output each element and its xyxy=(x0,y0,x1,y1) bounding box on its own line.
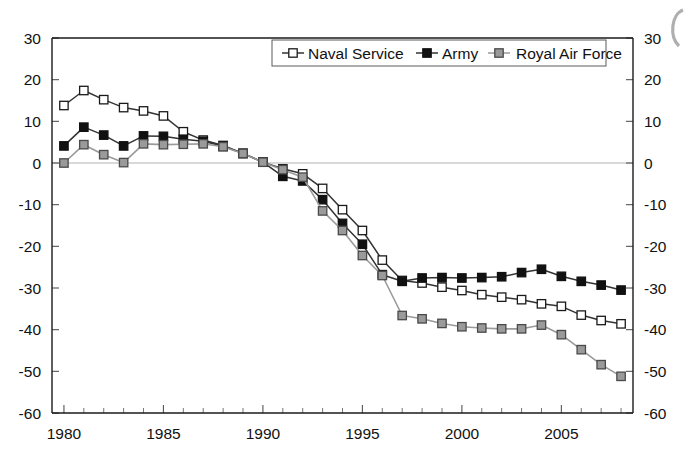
data-point-marker xyxy=(517,295,525,303)
chart-legend: Naval ServiceArmyRoyal Air Force xyxy=(272,40,622,66)
data-point-marker xyxy=(577,277,585,285)
data-point-marker xyxy=(219,143,227,151)
data-point-marker xyxy=(159,140,167,148)
data-point-marker xyxy=(418,274,426,282)
y-tick-label-right: -10 xyxy=(644,196,667,213)
data-point-marker xyxy=(80,123,88,131)
data-point-marker xyxy=(358,226,366,234)
y-tick-label-left: -30 xyxy=(19,280,42,297)
data-point-marker xyxy=(458,286,466,294)
data-point-marker xyxy=(478,324,486,332)
y-tick-label-right: -20 xyxy=(644,238,667,255)
data-point-marker xyxy=(438,273,446,281)
y-tick-label-left: -40 xyxy=(19,321,42,338)
data-point-marker xyxy=(478,290,486,298)
data-point-marker xyxy=(318,207,326,215)
data-point-marker xyxy=(537,321,545,329)
data-point-marker xyxy=(617,372,625,380)
data-point-marker xyxy=(358,251,366,259)
data-point-marker xyxy=(199,140,207,148)
data-point-marker xyxy=(338,226,346,234)
legend-marker-swatch xyxy=(495,49,503,57)
data-point-marker xyxy=(597,316,605,324)
data-point-marker xyxy=(318,184,326,192)
y-tick-label-left: -60 xyxy=(19,405,42,422)
data-point-marker xyxy=(279,165,287,173)
data-point-marker xyxy=(577,345,585,353)
chart-container: 3020100-10-20-30-40-50-60 3020100-10-20-… xyxy=(0,0,688,451)
y-tick-label-right: -30 xyxy=(644,280,667,297)
y-tick-label-right: 0 xyxy=(644,155,653,172)
data-point-marker xyxy=(139,132,147,140)
legend-label: Royal Air Force xyxy=(516,45,622,62)
data-point-marker xyxy=(378,256,386,264)
data-point-marker xyxy=(597,360,605,368)
data-point-marker xyxy=(139,140,147,148)
y-tick-label-right: 10 xyxy=(644,113,662,130)
data-point-marker xyxy=(338,205,346,213)
data-point-marker xyxy=(119,158,127,166)
data-point-marker xyxy=(597,281,605,289)
data-point-marker xyxy=(378,271,386,279)
data-point-marker xyxy=(418,315,426,323)
data-point-marker xyxy=(517,268,525,276)
data-point-marker xyxy=(119,142,127,150)
data-point-marker xyxy=(80,86,88,94)
data-point-marker xyxy=(60,142,68,150)
data-point-marker xyxy=(617,286,625,294)
legend-label: Naval Service xyxy=(308,45,404,62)
data-point-marker xyxy=(100,150,108,158)
x-tick-label: 2005 xyxy=(544,425,578,442)
data-point-marker xyxy=(119,103,127,111)
data-point-marker xyxy=(517,325,525,333)
data-point-marker xyxy=(100,131,108,139)
data-point-marker xyxy=(80,140,88,148)
data-point-marker xyxy=(100,95,108,103)
y-tick-label-left: 0 xyxy=(32,155,41,172)
data-point-marker xyxy=(159,112,167,120)
x-tick-label: 1990 xyxy=(246,425,281,442)
y-tick-label-left: 20 xyxy=(24,71,42,88)
legend-label: Army xyxy=(442,45,478,62)
data-point-marker xyxy=(259,158,267,166)
data-point-marker xyxy=(438,319,446,327)
x-tick-label: 1995 xyxy=(345,425,379,442)
data-point-marker xyxy=(398,311,406,319)
y-tick-label-right: 20 xyxy=(644,71,662,88)
data-point-marker xyxy=(537,265,545,273)
y-tick-label-left: -50 xyxy=(19,363,42,380)
data-point-marker xyxy=(358,240,366,248)
y-tick-label-left: 30 xyxy=(24,30,42,47)
data-point-marker xyxy=(60,101,68,109)
x-tick-label: 1980 xyxy=(47,425,82,442)
data-point-marker xyxy=(497,273,505,281)
data-point-marker xyxy=(497,293,505,301)
data-point-marker xyxy=(557,302,565,310)
legend-marker-swatch xyxy=(423,49,431,57)
data-point-marker xyxy=(438,283,446,291)
data-point-marker xyxy=(239,149,247,157)
data-point-marker xyxy=(617,320,625,328)
y-tick-label-right: -60 xyxy=(644,405,667,422)
data-point-marker xyxy=(398,277,406,285)
data-point-marker xyxy=(497,325,505,333)
y-tick-label-right: -50 xyxy=(644,363,667,380)
data-point-marker xyxy=(478,273,486,281)
y-tick-label-left: 10 xyxy=(24,113,42,130)
line-chart: 3020100-10-20-30-40-50-60 3020100-10-20-… xyxy=(0,0,688,451)
data-point-marker xyxy=(537,300,545,308)
data-point-marker xyxy=(577,311,585,319)
data-point-marker xyxy=(557,330,565,338)
x-tick-label: 2000 xyxy=(445,425,480,442)
data-point-marker xyxy=(60,159,68,167)
data-point-marker xyxy=(458,274,466,282)
data-point-marker xyxy=(159,132,167,140)
y-tick-label-left: -10 xyxy=(19,196,42,213)
data-point-marker xyxy=(179,140,187,148)
data-point-marker xyxy=(557,272,565,280)
data-point-marker xyxy=(139,107,147,115)
data-point-marker xyxy=(458,323,466,331)
y-tick-label-left: -20 xyxy=(19,238,42,255)
y-tick-label-right: -40 xyxy=(644,321,667,338)
y-tick-label-right: 30 xyxy=(644,30,662,47)
